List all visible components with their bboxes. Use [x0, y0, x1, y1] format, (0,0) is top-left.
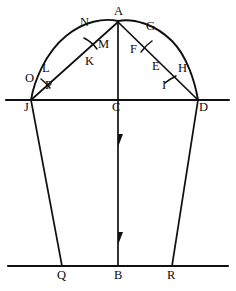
point-label-j: J: [24, 101, 29, 114]
point-label-m: M: [98, 38, 109, 51]
point-label-r: R: [167, 269, 175, 282]
point-label-c: C: [112, 101, 120, 114]
point-label-p: P: [45, 79, 52, 92]
geometry-figure: A N G M F K E H L O I P J C D Q B R: [0, 0, 236, 291]
point-label-e: E: [152, 60, 160, 73]
point-label-i: I: [162, 79, 166, 92]
point-label-n: N: [80, 16, 89, 29]
point-label-g: G: [146, 20, 155, 33]
point-label-h: H: [178, 62, 187, 75]
dot-near-b: [111, 265, 113, 267]
point-label-f: F: [130, 43, 137, 56]
point-label-d: D: [199, 101, 208, 114]
leg-j-q: [31, 100, 62, 266]
point-label-q: Q: [57, 269, 66, 282]
tick-mark-hi: [165, 76, 176, 83]
point-label-a: A: [114, 5, 123, 18]
point-label-o: O: [25, 72, 34, 85]
leg-d-r: [172, 100, 198, 266]
figure-canvas: [0, 0, 236, 291]
point-label-l: L: [42, 62, 50, 75]
point-label-k: K: [85, 55, 94, 68]
point-label-b: B: [114, 269, 122, 282]
arc-curve-jad: [31, 20, 198, 100]
